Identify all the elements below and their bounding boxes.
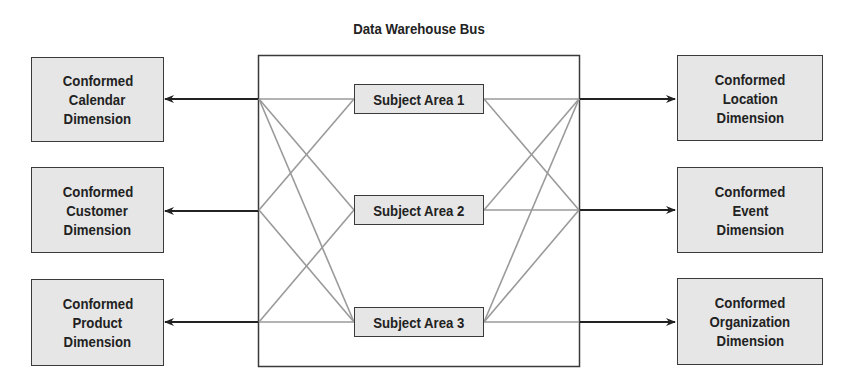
dimension-label-line: Dimension	[64, 220, 131, 239]
dimension-label-line: Product	[73, 313, 123, 332]
dimension-label-line: Conformed	[715, 182, 785, 201]
dimension-event: Conformed Event Dimension	[677, 167, 823, 253]
dimension-label-line: Dimension	[716, 108, 783, 127]
dimension-location: Conformed Location Dimension	[677, 55, 823, 141]
dimension-label-line: Conformed	[62, 182, 132, 201]
dimension-product: Conformed Product Dimension	[31, 279, 164, 366]
dimension-label-line: Conformed	[715, 70, 785, 89]
dimension-label-line: Organization	[710, 312, 791, 331]
left-connectors	[259, 99, 354, 322]
subject-area-1: Subject Area 1	[354, 84, 484, 114]
dimension-label-line: Location	[723, 89, 778, 108]
dimension-label-line: Conformed	[62, 71, 132, 90]
dimension-label-line: Dimension	[64, 332, 131, 351]
dimension-label-line: Dimension	[64, 109, 131, 128]
subject-area-label: Subject Area 2	[373, 202, 464, 219]
right-connectors	[484, 99, 579, 322]
dimension-label-line: Conformed	[715, 293, 785, 312]
dimension-label-line: Customer	[67, 201, 129, 220]
dimension-calendar: Conformed Calendar Dimension	[31, 57, 164, 142]
dimension-customer: Conformed Customer Dimension	[31, 167, 164, 253]
subject-area-label: Subject Area 3	[373, 314, 464, 331]
subject-area-3: Subject Area 3	[354, 307, 484, 337]
dimension-label-line: Event	[732, 201, 768, 220]
subject-area-label: Subject Area 1	[373, 91, 464, 108]
dimension-organization: Conformed Organization Dimension	[677, 278, 823, 365]
dimension-label-line: Calendar	[69, 90, 125, 109]
dimension-label-line: Conformed	[62, 294, 132, 313]
subject-area-2: Subject Area 2	[354, 195, 484, 225]
dimension-label-line: Dimension	[716, 220, 783, 239]
dimension-label-line: Dimension	[716, 331, 783, 350]
